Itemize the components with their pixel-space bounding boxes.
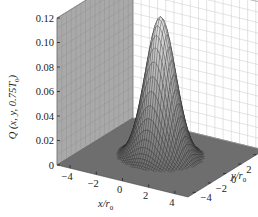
x-tick-label: −4 — [62, 171, 74, 182]
y-tick-label: −2 — [216, 183, 227, 194]
y-tick-label: −4 — [201, 192, 213, 203]
y-axis-label: y/r0 — [231, 170, 246, 184]
x-tick-label: 4 — [169, 197, 175, 208]
y-tick-label: 2 — [246, 164, 251, 175]
surface-plot: 00.020.040.060.080.100.12−4−2024−4−2024 — [0, 0, 258, 217]
z-tick-label: 0 — [49, 160, 54, 171]
x-tick-label: −2 — [88, 178, 99, 189]
z-tick-label: 0.12 — [36, 13, 54, 24]
z-axis-label: Q (x, y, 0.75T0) — [7, 47, 21, 167]
z-tick-label: 0.02 — [36, 135, 54, 146]
x-tick-label: 0 — [117, 184, 122, 195]
x-axis-label: x/r0 — [98, 198, 113, 212]
z-tick-label: 0.08 — [36, 62, 54, 73]
z-tick-label: 0.06 — [36, 86, 54, 97]
x-tick-label: 2 — [143, 190, 148, 201]
z-tick-label: 0.10 — [36, 37, 54, 48]
z-tick-label: 0.04 — [36, 111, 55, 122]
